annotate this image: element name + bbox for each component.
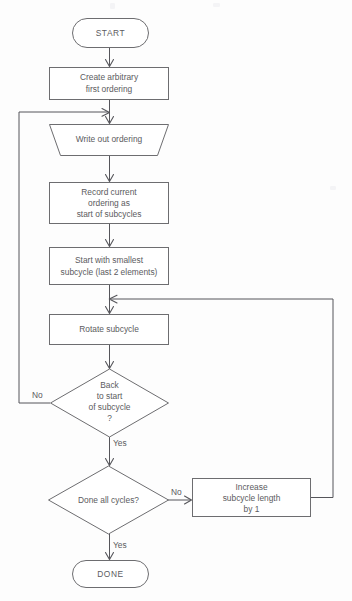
node-increase-subcycle-length[interactable]: Increase subcycle length by 1 [193,479,311,517]
back-to-start-line-2: to start [97,391,123,401]
node-done-all-cycles[interactable]: Done all cycles? [49,466,169,534]
back-to-start-line-4: ? [107,413,112,423]
edge-label-back-yes: Yes [113,438,127,448]
node-create-first-ordering[interactable]: Create arbitrary first ordering [50,68,169,100]
node-record-current-ordering[interactable]: Record current ordering as start of subc… [50,183,169,224]
node-back-to-start-of-subcycle[interactable]: Back to start of subcycle ? [51,369,169,437]
record-current-ordering-line-2: ordering as [88,198,130,208]
increase-subcycle-length-line-2: subcycle length [223,493,281,503]
record-current-ordering-line-3: start of subcycles [77,209,142,219]
back-to-start-line-1: Back [100,380,119,390]
rotate-subcycle-label: Rotate subcycle [79,324,139,334]
start-smallest-subcycle-line-1: Start with smallest [75,255,144,265]
edge-write-to-record [106,156,114,182]
increase-subcycle-length-line-1: Increase [235,482,267,492]
node-done[interactable]: DONE [73,561,149,588]
node-start[interactable]: START [73,19,149,48]
create-first-ordering-line-1: Create arbitrary [80,72,139,82]
start-label: START [96,28,126,38]
edge-start-to-create [106,48,114,67]
edge-label-back-no: No [32,390,43,400]
start-smallest-subcycle-line-2: subcycle (last 2 elements) [61,267,158,277]
flowchart-diagram: START Create arbitrary first ordering Wr… [0,0,352,601]
edge-rotate-to-back-decision [106,345,114,369]
increase-subcycle-length-line-3: by 1 [244,504,260,514]
create-first-ordering-line-2: first ordering [86,84,133,94]
record-current-ordering-line-1: Record current [81,187,137,197]
edge-label-cycles-no: No [171,487,182,497]
write-out-ordering-label: Write out ordering [76,134,143,144]
node-rotate-subcycle[interactable]: Rotate subcycle [50,315,169,345]
back-to-start-line-3: of subcycle [89,402,131,412]
done-all-cycles-label: Done all cycles? [78,495,139,505]
flowchart-canvas: START Create arbitrary first ordering Wr… [0,0,352,601]
edge-record-to-start-smallest [106,224,114,247]
done-label: DONE [97,569,124,579]
node-write-out-ordering[interactable]: Write out ordering [50,125,169,156]
edge-label-cycles-yes: Yes [113,540,127,550]
node-start-smallest-subcycle[interactable]: Start with smallest subcycle (last 2 ele… [50,248,169,285]
